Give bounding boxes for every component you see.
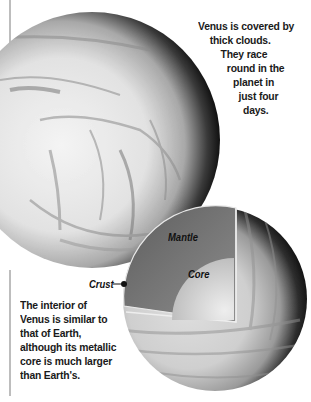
caption-line: Venus is similar to: [20, 312, 107, 326]
caption-line: planet in: [233, 75, 274, 89]
caption-line: that of Earth,: [20, 326, 81, 340]
clouds-caption: Venus is covered by thick clouds. They r…: [0, 0, 280, 130]
caption-line: round in the: [227, 61, 285, 75]
caption-line: than Earth's.: [20, 368, 80, 382]
caption-line: core is much larger: [20, 354, 112, 368]
caption-line: days.: [243, 103, 269, 117]
mantle-label: Mantle: [168, 231, 198, 243]
caption-line: thick clouds.: [210, 33, 271, 47]
caption-line: Venus is covered by: [198, 19, 294, 33]
caption-line: They race: [221, 47, 268, 61]
core-label: Core: [188, 268, 210, 280]
caption-line: just four: [239, 89, 279, 103]
interior-caption: The interior of Venus is similar to that…: [20, 298, 146, 388]
crust-label: Crust: [89, 278, 114, 290]
crust-marker: [121, 281, 127, 287]
caption-line: The interior of: [20, 298, 87, 312]
caption-line: although its metallic: [20, 340, 116, 354]
